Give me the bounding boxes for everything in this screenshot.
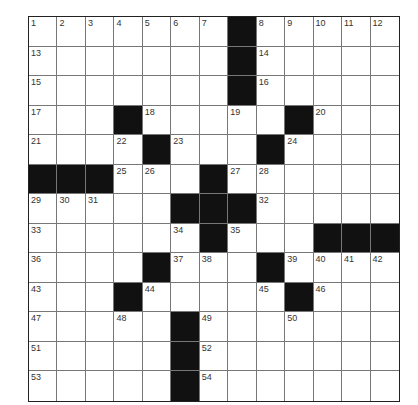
grid-cell[interactable]: 51	[29, 342, 57, 372]
grid-cell[interactable]	[257, 312, 285, 342]
grid-cell[interactable]: 48	[114, 312, 142, 342]
grid-cell[interactable]: 1	[29, 17, 57, 47]
grid-cell[interactable]	[114, 253, 142, 283]
grid-cell[interactable]: 7	[200, 17, 228, 47]
grid-cell[interactable]: 53	[29, 371, 57, 401]
grid-cell[interactable]	[143, 47, 171, 77]
grid-cell[interactable]	[171, 106, 199, 136]
grid-cell[interactable]	[257, 106, 285, 136]
grid-cell[interactable]	[200, 135, 228, 165]
grid-cell[interactable]: 17	[29, 106, 57, 136]
grid-cell[interactable]: 43	[29, 283, 57, 313]
grid-cell[interactable]: 12	[371, 17, 399, 47]
grid-cell[interactable]: 3	[86, 17, 114, 47]
grid-cell[interactable]: 44	[143, 283, 171, 313]
grid-cell[interactable]: 22	[114, 135, 142, 165]
grid-cell[interactable]: 6	[171, 17, 199, 47]
grid-cell[interactable]	[371, 371, 399, 401]
grid-cell[interactable]	[371, 312, 399, 342]
grid-cell[interactable]: 30	[57, 194, 85, 224]
grid-cell[interactable]	[285, 165, 313, 195]
grid-cell[interactable]	[342, 371, 370, 401]
grid-cell[interactable]	[86, 312, 114, 342]
grid-cell[interactable]: 8	[257, 17, 285, 47]
grid-cell[interactable]: 15	[29, 76, 57, 106]
grid-cell[interactable]	[314, 47, 342, 77]
grid-cell[interactable]: 37	[171, 253, 199, 283]
grid-cell[interactable]	[200, 76, 228, 106]
grid-cell[interactable]: 47	[29, 312, 57, 342]
grid-cell[interactable]	[86, 76, 114, 106]
grid-cell[interactable]	[57, 76, 85, 106]
grid-cell[interactable]: 18	[143, 106, 171, 136]
grid-cell[interactable]: 39	[285, 253, 313, 283]
grid-cell[interactable]	[371, 135, 399, 165]
grid-cell[interactable]	[143, 224, 171, 254]
grid-cell[interactable]	[114, 371, 142, 401]
grid-cell[interactable]: 46	[314, 283, 342, 313]
grid-cell[interactable]	[342, 47, 370, 77]
grid-cell[interactable]	[314, 165, 342, 195]
grid-cell[interactable]	[114, 47, 142, 77]
grid-cell[interactable]	[86, 135, 114, 165]
grid-cell[interactable]	[314, 371, 342, 401]
grid-cell[interactable]	[285, 76, 313, 106]
grid-cell[interactable]	[371, 47, 399, 77]
grid-cell[interactable]	[257, 342, 285, 372]
grid-cell[interactable]	[86, 283, 114, 313]
grid-cell[interactable]: 36	[29, 253, 57, 283]
grid-cell[interactable]	[143, 342, 171, 372]
grid-cell[interactable]: 21	[29, 135, 57, 165]
grid-cell[interactable]: 33	[29, 224, 57, 254]
grid-cell[interactable]	[57, 342, 85, 372]
grid-cell[interactable]: 11	[342, 17, 370, 47]
grid-cell[interactable]: 29	[29, 194, 57, 224]
grid-cell[interactable]	[200, 106, 228, 136]
grid-cell[interactable]	[228, 283, 256, 313]
grid-cell[interactable]	[371, 342, 399, 372]
grid-cell[interactable]	[86, 371, 114, 401]
grid-cell[interactable]	[57, 312, 85, 342]
grid-cell[interactable]	[86, 253, 114, 283]
grid-cell[interactable]	[228, 342, 256, 372]
grid-cell[interactable]	[57, 224, 85, 254]
grid-cell[interactable]	[371, 194, 399, 224]
grid-cell[interactable]	[342, 342, 370, 372]
grid-cell[interactable]: 35	[228, 224, 256, 254]
grid-cell[interactable]: 42	[371, 253, 399, 283]
grid-cell[interactable]: 49	[200, 312, 228, 342]
grid-cell[interactable]	[257, 224, 285, 254]
grid-cell[interactable]	[342, 135, 370, 165]
grid-cell[interactable]	[342, 194, 370, 224]
grid-cell[interactable]: 41	[342, 253, 370, 283]
grid-cell[interactable]	[228, 371, 256, 401]
grid-cell[interactable]	[314, 342, 342, 372]
grid-cell[interactable]	[114, 342, 142, 372]
grid-cell[interactable]	[86, 47, 114, 77]
grid-cell[interactable]	[314, 194, 342, 224]
grid-cell[interactable]: 14	[257, 47, 285, 77]
grid-cell[interactable]: 38	[200, 253, 228, 283]
grid-cell[interactable]: 24	[285, 135, 313, 165]
grid-cell[interactable]	[314, 76, 342, 106]
grid-cell[interactable]: 19	[228, 106, 256, 136]
grid-cell[interactable]	[285, 194, 313, 224]
grid-cell[interactable]	[342, 106, 370, 136]
grid-cell[interactable]	[285, 224, 313, 254]
grid-cell[interactable]	[114, 224, 142, 254]
grid-cell[interactable]	[86, 224, 114, 254]
grid-cell[interactable]	[143, 312, 171, 342]
grid-cell[interactable]	[285, 47, 313, 77]
grid-cell[interactable]: 54	[200, 371, 228, 401]
grid-cell[interactable]	[57, 283, 85, 313]
grid-cell[interactable]: 10	[314, 17, 342, 47]
grid-cell[interactable]	[171, 47, 199, 77]
grid-cell[interactable]: 52	[200, 342, 228, 372]
grid-cell[interactable]	[114, 76, 142, 106]
grid-cell[interactable]	[342, 76, 370, 106]
grid-cell[interactable]: 5	[143, 17, 171, 47]
grid-cell[interactable]: 13	[29, 47, 57, 77]
grid-cell[interactable]	[314, 135, 342, 165]
grid-cell[interactable]	[57, 135, 85, 165]
grid-cell[interactable]: 27	[228, 165, 256, 195]
